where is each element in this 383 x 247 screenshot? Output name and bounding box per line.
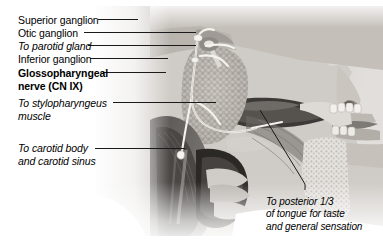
label-to-carotid-body-and-sinus: To carotid body and carotid sinus [18,142,96,167]
label-carotid-line2: and carotid sinus [18,155,96,168]
label-inferior-ganglion: Inferior ganglion [18,53,92,66]
anatomy-figure: Superior ganglion Otic ganglion To parot… [0,0,383,247]
leader-line-carotid-body [95,148,185,149]
label-superior-ganglion: Superior ganglion [18,14,99,27]
label-to-parotid-gland: To parotid gland [18,40,91,53]
label-tongue-line2: of tongue for taste [266,208,362,220]
label-glossopharyngeal-nerve: Glossopharyngeal nerve (CN IX) [18,67,108,92]
leader-line-superior-ganglion [98,19,138,20]
leader-line-otic-ganglion [84,32,196,33]
leader-line-stylopharyngeus [113,102,216,103]
leader-line-to-parotid-gland [88,45,196,46]
label-to-stylopharyngeus-muscle: To stylopharyngeus muscle [18,97,107,122]
leader-line-tongue [255,108,315,190]
label-to-posterior-tongue: To posterior 1/3 of tongue for taste and… [266,196,362,233]
label-glossopharyngeal-nerve-line1: Glossopharyngeal [18,67,108,80]
label-carotid-line1: To carotid body [18,142,96,155]
leader-line-glossopharyngeal-nerve [103,72,166,73]
leader-line-inferior-ganglion [90,58,168,59]
label-stylopharyngeus-line2: muscle [18,110,107,123]
label-glossopharyngeal-nerve-line2: nerve (CN IX) [18,80,108,93]
label-stylopharyngeus-line1: To stylopharyngeus [18,97,107,110]
label-otic-ganglion: Otic ganglion [18,27,78,40]
label-tongue-line3: and general sensation [266,221,362,233]
label-tongue-line1: To posterior 1/3 [266,196,362,208]
